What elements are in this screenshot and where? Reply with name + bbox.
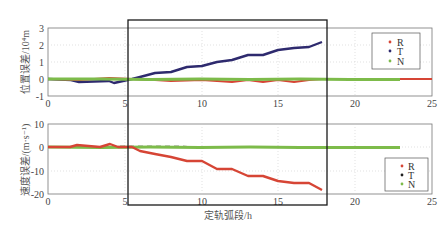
top-xtick: 5 [123, 98, 128, 109]
bottom-xtick: 5 [123, 196, 128, 207]
bottom-ylabel: 速度误差/(m·s⁻¹) [19, 124, 32, 197]
legend-marker-R-icon [401, 165, 404, 168]
bottom-ytick: 0 [39, 142, 44, 153]
bottom-plot: 10 0 -10 -20 0 5 10 15 20 25 速度误差/(m·s⁻¹… [19, 119, 437, 221]
top-ytick: 2 [39, 40, 44, 51]
top-xtick: 10 [197, 98, 207, 109]
top-ytick: 1 [39, 57, 44, 68]
x-axis-label: 定轨弧段/h [204, 209, 252, 221]
top-ytick: 3 [39, 23, 44, 34]
legend-label: N [397, 56, 404, 67]
top-series-N [48, 79, 400, 80]
legend-label: N [408, 179, 415, 190]
bottom-xtick: 20 [350, 196, 360, 207]
top-xtick: 15 [273, 98, 283, 109]
legend-marker-R-icon [389, 41, 392, 44]
top-ylabel: 位置误差/10⁴m [19, 30, 31, 94]
top-xtick: 20 [350, 98, 360, 109]
top-xtick: 0 [46, 98, 51, 109]
bottom-xtick: 0 [46, 196, 51, 207]
legend-marker-N-icon [389, 60, 392, 63]
legend-marker-N-icon [401, 183, 404, 186]
top-legend: R T N [372, 33, 420, 69]
bottom-ytick: -10 [31, 166, 44, 177]
bottom-axes-frame [48, 124, 432, 194]
bottom-ytick: -20 [31, 189, 44, 200]
bottom-xtick: 25 [427, 196, 437, 207]
legend-marker-T-icon [401, 174, 404, 177]
top-ytick: 0 [39, 74, 44, 85]
top-xtick: 25 [427, 98, 437, 109]
bottom-legend: R T N [385, 158, 428, 191]
legend-marker-T-icon [389, 50, 392, 53]
bottom-ytick: 10 [34, 119, 44, 130]
figure: 3 2 1 0 -1 0 5 10 15 20 25 位置误差/10⁴m R T… [0, 0, 448, 232]
top-ytick: -1 [36, 91, 44, 102]
top-plot: 3 2 1 0 -1 0 5 10 15 20 25 位置误差/10⁴m R T… [19, 23, 437, 109]
